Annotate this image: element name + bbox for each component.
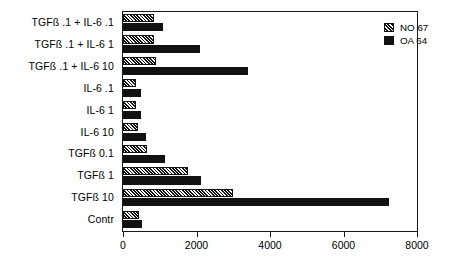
bar-group <box>123 187 417 209</box>
bar-oa64 <box>123 220 142 228</box>
bar-no67 <box>123 101 136 109</box>
bar-no67 <box>123 14 154 22</box>
bar-no67 <box>123 35 154 43</box>
x-axis-tick-label: 6000 <box>332 239 355 251</box>
bar-oa64 <box>123 155 165 163</box>
x-axis-tick-label: 0 <box>120 239 126 251</box>
category-label: TGFß .1 + IL-6 10 <box>29 55 114 77</box>
category-label: TGFß .1 + IL-6 1 <box>35 33 115 55</box>
x-axis-tick <box>123 232 124 237</box>
bar-group <box>123 122 417 144</box>
bar-chart: TGFß .1 + IL-6 .1TGFß .1 + IL-6 1TGFß .1… <box>0 0 449 271</box>
bar-oa64 <box>123 111 141 119</box>
category-label: TGFß 0.1 <box>68 142 114 164</box>
bar-oa64 <box>123 23 163 31</box>
x-axis-tick-label: 4000 <box>258 239 281 251</box>
bar-no67 <box>123 189 233 197</box>
x-axis-tick-label: 2000 <box>185 239 208 251</box>
bar-no67 <box>123 145 147 153</box>
bar-no67 <box>123 123 138 131</box>
bar-oa64 <box>123 198 389 206</box>
bar-group <box>123 100 417 122</box>
category-label: TGFß 10 <box>71 186 114 208</box>
bar-oa64 <box>123 67 248 75</box>
solid-swatch-icon <box>384 36 394 45</box>
legend-label: NO 67 <box>400 22 428 33</box>
bar-no67 <box>123 167 188 175</box>
bar-oa64 <box>123 45 200 53</box>
category-label: TGFß .1 + IL-6 .1 <box>31 11 114 33</box>
bar-group <box>123 34 417 56</box>
x-axis-tick <box>344 232 345 237</box>
bar-group <box>123 12 417 34</box>
bar-no67 <box>123 79 136 87</box>
category-axis-labels: TGFß .1 + IL-6 .1TGFß .1 + IL-6 1TGFß .1… <box>0 11 119 232</box>
category-label: Contr <box>88 208 114 230</box>
bar-oa64 <box>123 176 201 184</box>
category-label: TGFß 1 <box>77 164 114 186</box>
x-axis-tick-label: 8000 <box>405 239 428 251</box>
bar-no67 <box>123 57 156 65</box>
category-label: IL-6 1 <box>87 99 114 121</box>
bar-group <box>123 143 417 165</box>
x-axis-tick <box>417 232 418 237</box>
bar-group <box>123 165 417 187</box>
x-axis-tick <box>197 232 198 237</box>
bar-group <box>123 209 417 231</box>
x-axis: 02000400060008000 <box>122 232 418 266</box>
legend-label: OA 64 <box>400 35 427 46</box>
bar-no67 <box>123 211 139 219</box>
bar-oa64 <box>123 89 141 97</box>
bar-group <box>123 78 417 100</box>
category-label: IL-6 10 <box>81 121 114 143</box>
bar-oa64 <box>123 133 146 141</box>
category-label: IL-6 .1 <box>84 77 114 99</box>
bar-series-container <box>123 12 417 231</box>
hatched-swatch-icon <box>384 23 394 32</box>
x-axis-tick <box>270 232 271 237</box>
bar-group <box>123 56 417 78</box>
